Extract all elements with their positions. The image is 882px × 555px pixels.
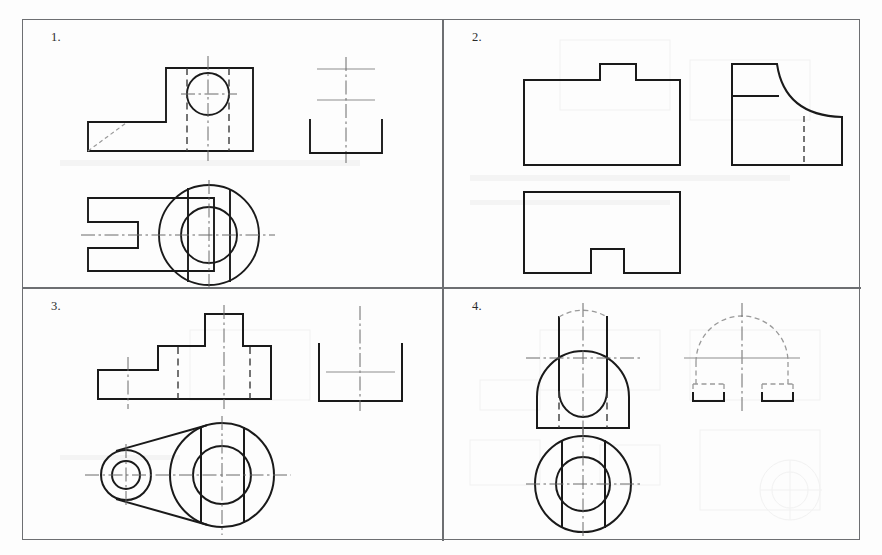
exercise-1-panel[interactable]: 1. .sl{stroke:#1a1a1a;stroke-width:1.9;f… — [23, 20, 442, 287]
exercise-2-side-view — [732, 64, 842, 165]
exercise-1-top-view — [81, 180, 275, 287]
exercise-4-panel[interactable]: 4. .sl4{stroke:#1a1a1a;stroke-width:2;fi… — [444, 289, 861, 541]
exercise-2-front-view — [524, 64, 680, 165]
exercise-2-drawing: .sl2{stroke:#1a1a1a;stroke-width:2;fill:… — [444, 20, 861, 287]
exercise-2-panel[interactable]: 2. .sl2{stroke:#1a1a1a;stroke-width:2;fi… — [444, 20, 861, 287]
exercise-3-top-view — [85, 416, 291, 535]
exercise-3-side-view-incomplete — [319, 306, 402, 411]
exercise-4-side-view-incomplete — [684, 303, 800, 411]
exercise-3-front-view — [98, 305, 271, 409]
exercise-4-top-view — [526, 428, 640, 540]
worksheet-sheet: 1. .sl{stroke:#1a1a1a;stroke-width:1.9;f… — [0, 0, 882, 555]
exercise-3-drawing: .sl3{stroke:#1a1a1a;stroke-width:2;fill:… — [23, 289, 442, 541]
exercise-1-front-view — [88, 56, 253, 161]
exercise-1-drawing: .sl{stroke:#1a1a1a;stroke-width:1.9;fill… — [23, 20, 442, 287]
exercise-3-panel[interactable]: 3. .sl3{stroke:#1a1a1a;stroke-width:2;fi… — [23, 289, 442, 541]
exercise-1-side-view-incomplete — [310, 57, 382, 163]
exercise-4-drawing: .sl4{stroke:#1a1a1a;stroke-width:2;fill:… — [444, 289, 861, 541]
exercise-2-top-view — [524, 192, 680, 273]
exercise-4-front-view — [526, 303, 640, 439]
worksheet-frame: 1. .sl{stroke:#1a1a1a;stroke-width:1.9;f… — [22, 19, 860, 540]
